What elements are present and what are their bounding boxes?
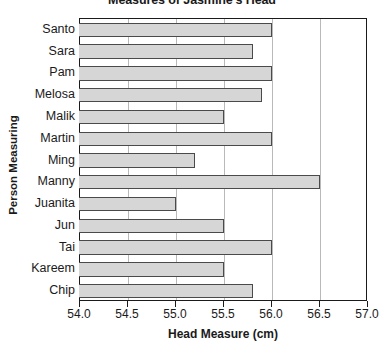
bar — [79, 88, 262, 102]
plot-area — [79, 18, 367, 301]
x-axis-tick-label: 55.0 — [163, 307, 186, 321]
bar — [79, 175, 320, 189]
y-axis-tick-label: Pam — [0, 65, 75, 79]
y-axis-tick-label: Martin — [0, 131, 75, 145]
bar — [79, 153, 195, 167]
y-axis-tick-label: Kareem — [0, 261, 75, 275]
bar — [79, 23, 272, 37]
y-axis-tick-label: Juanita — [0, 196, 75, 210]
bars-layer — [80, 19, 366, 300]
bar-row — [80, 132, 366, 146]
bar — [79, 132, 272, 146]
bar — [79, 240, 272, 254]
x-axis-tick-label: 57.0 — [355, 307, 378, 321]
y-axis-tick-label: Ming — [0, 153, 75, 167]
bar-row — [80, 23, 366, 37]
bar-row — [80, 262, 366, 276]
y-axis-tick-label: Tai — [0, 240, 75, 254]
bar-chart: Measures of Jasmine's Head Person Measur… — [0, 0, 384, 349]
bar-row — [80, 197, 366, 211]
bar-row — [80, 66, 366, 80]
x-axis-tick-label: 56.5 — [307, 307, 330, 321]
bar — [79, 197, 176, 211]
x-axis-title: Head Measure (cm) — [79, 327, 367, 341]
bar — [79, 66, 272, 80]
y-axis-tick-label: Jun — [0, 218, 75, 232]
bar-row — [80, 44, 366, 58]
bar — [79, 44, 253, 58]
bar-row — [80, 219, 366, 233]
x-axis-tick-label: 56.0 — [259, 307, 282, 321]
bar-row — [80, 284, 366, 298]
y-axis-tick-labels: SantoSaraPamMelosaMalikMartinMingMannyJu… — [0, 18, 75, 301]
y-axis-tick-label: Sara — [0, 44, 75, 58]
x-axis-tick-label: 54.5 — [115, 307, 138, 321]
bar-row — [80, 240, 366, 254]
chart-title: Measures of Jasmine's Head — [0, 0, 384, 7]
y-axis-tick-label: Manny — [0, 174, 75, 188]
bar — [79, 110, 224, 124]
x-axis-tick-label: 54.0 — [67, 307, 90, 321]
x-axis-tick-labels: 54.054.555.055.556.056.557.0 — [79, 307, 367, 323]
x-axis-tick-label: 55.5 — [211, 307, 234, 321]
y-axis-tick-label: Santo — [0, 22, 75, 36]
bar-row — [80, 88, 366, 102]
bar — [79, 262, 224, 276]
y-axis-tick-label: Malik — [0, 109, 75, 123]
bar — [79, 284, 253, 298]
bar-row — [80, 175, 366, 189]
bar — [79, 219, 224, 233]
y-axis-tick-label: Melosa — [0, 87, 75, 101]
y-axis-tick-label: Chip — [0, 283, 75, 297]
bar-row — [80, 110, 366, 124]
bar-row — [80, 153, 366, 167]
